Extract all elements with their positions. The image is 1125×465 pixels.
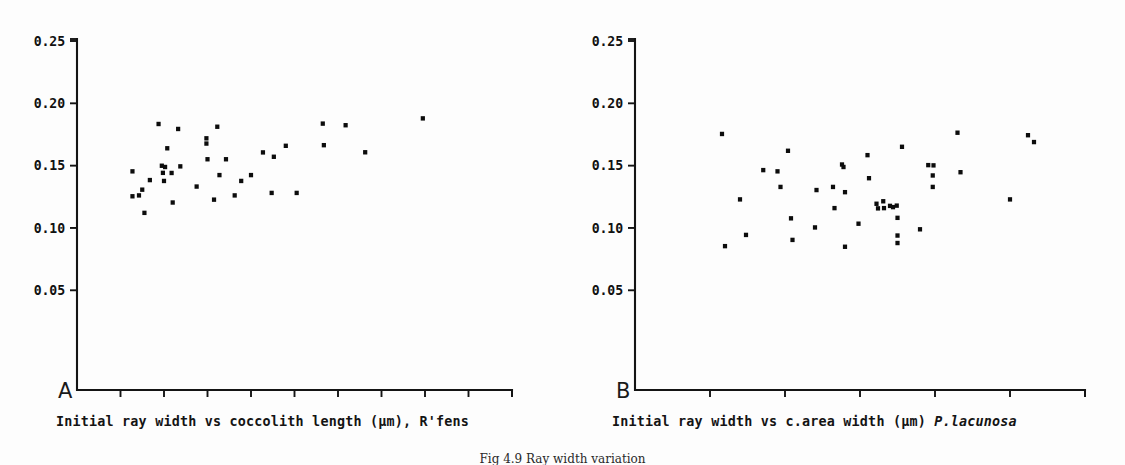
- data-point: [876, 206, 880, 210]
- data-point: [212, 197, 216, 201]
- panel-a-plot: 0.050.100.150.200.252468101214161820: [0, 0, 560, 400]
- data-point: [142, 211, 146, 215]
- svg-text:16: 16: [417, 399, 433, 400]
- data-point: [137, 193, 141, 197]
- panel-b-letter: B: [616, 381, 630, 402]
- data-point: [1008, 197, 1012, 201]
- data-point: [322, 143, 326, 147]
- data-point: [723, 244, 727, 248]
- data-point: [270, 191, 274, 195]
- data-point: [832, 206, 836, 210]
- data-point: [170, 171, 174, 175]
- data-point: [831, 185, 835, 189]
- data-point: [738, 197, 742, 201]
- svg-text:6: 6: [204, 399, 212, 400]
- data-point: [856, 222, 860, 226]
- data-point: [178, 164, 182, 168]
- svg-text:0.10: 0.10: [34, 221, 66, 236]
- data-point: [900, 145, 904, 149]
- svg-text:1.5: 1.5: [848, 399, 872, 400]
- data-point: [958, 170, 962, 174]
- panel-a-caption-text: Initial ray width vs coccolith length (µ…: [56, 414, 469, 429]
- data-point: [761, 168, 765, 172]
- data-point: [217, 173, 221, 177]
- data-point: [163, 165, 167, 169]
- data-point: [790, 238, 794, 242]
- svg-text:14: 14: [374, 399, 390, 400]
- data-point: [895, 241, 899, 245]
- data-point: [148, 178, 152, 182]
- data-point: [867, 176, 871, 180]
- data-point: [931, 185, 935, 189]
- data-point: [261, 150, 265, 154]
- data-point: [744, 233, 748, 237]
- data-point: [789, 216, 793, 220]
- data-point: [204, 141, 208, 145]
- data-point: [204, 136, 208, 140]
- svg-text:18: 18: [461, 399, 477, 400]
- svg-text:0.25: 0.25: [34, 34, 66, 49]
- data-point: [786, 149, 790, 153]
- svg-text:0.25: 0.25: [592, 34, 624, 49]
- data-point: [321, 121, 325, 125]
- data-point: [130, 169, 134, 173]
- panel-b-species-name: P.lacunosa: [934, 414, 1017, 429]
- svg-text:0.05: 0.05: [592, 283, 624, 298]
- panel-b-plot: 0.050.100.150.200.250.51.01.52.02.53.0: [560, 0, 1125, 400]
- panel-a: 0.050.100.150.200.252468101214161820 A I…: [0, 0, 560, 465]
- svg-text:0.5: 0.5: [698, 399, 722, 400]
- data-point: [233, 193, 237, 197]
- data-point: [205, 157, 209, 161]
- data-point: [874, 202, 878, 206]
- data-point: [778, 185, 782, 189]
- data-point: [918, 227, 922, 231]
- data-point: [295, 191, 299, 195]
- panel-b: 0.050.100.150.200.250.51.01.52.02.53.0: [560, 0, 1125, 465]
- svg-text:0.10: 0.10: [592, 221, 624, 236]
- svg-text:12: 12: [330, 399, 346, 400]
- data-point: [882, 206, 886, 210]
- data-point: [720, 132, 724, 136]
- svg-text:2: 2: [117, 399, 125, 400]
- svg-text:2.0: 2.0: [923, 399, 947, 400]
- data-point: [955, 131, 959, 135]
- svg-text:0.05: 0.05: [34, 283, 66, 298]
- data-point: [895, 216, 899, 220]
- scatter-points-a: [130, 116, 425, 215]
- data-point: [865, 153, 869, 157]
- data-point: [881, 199, 885, 203]
- panel-a-caption: Initial ray width vs coccolith length (µ…: [56, 414, 469, 429]
- data-point: [843, 245, 847, 249]
- data-point: [162, 179, 166, 183]
- figure-root: 0.050.100.150.200.252468101214161820 A I…: [0, 0, 1125, 465]
- data-point: [161, 171, 165, 175]
- data-point: [841, 165, 845, 169]
- scatter-points-b: [720, 131, 1036, 249]
- data-point: [926, 163, 930, 167]
- data-point: [843, 190, 847, 194]
- svg-text:10: 10: [287, 399, 303, 400]
- data-point: [1026, 133, 1030, 137]
- panel-b-caption-text: Initial ray width vs c.area width (µm): [612, 414, 934, 429]
- svg-text:4: 4: [160, 399, 168, 400]
- data-point: [171, 200, 175, 204]
- svg-text:1.0: 1.0: [773, 399, 797, 400]
- data-point: [814, 188, 818, 192]
- data-point: [215, 125, 219, 129]
- data-point: [895, 233, 899, 237]
- data-point: [1032, 140, 1036, 144]
- svg-text:20: 20: [504, 399, 520, 400]
- panel-a-letter: A: [58, 381, 72, 402]
- data-point: [272, 155, 276, 159]
- data-point: [224, 157, 228, 161]
- figure-caption: Fig 4.9 Ray width variation: [0, 452, 1125, 465]
- data-point: [195, 184, 199, 188]
- data-point: [249, 173, 253, 177]
- svg-text:0.20: 0.20: [34, 96, 66, 111]
- data-point: [156, 122, 160, 126]
- data-point: [363, 150, 367, 154]
- data-point: [891, 205, 895, 209]
- data-point: [165, 146, 169, 150]
- svg-text:0.15: 0.15: [34, 158, 66, 173]
- data-point: [895, 203, 899, 207]
